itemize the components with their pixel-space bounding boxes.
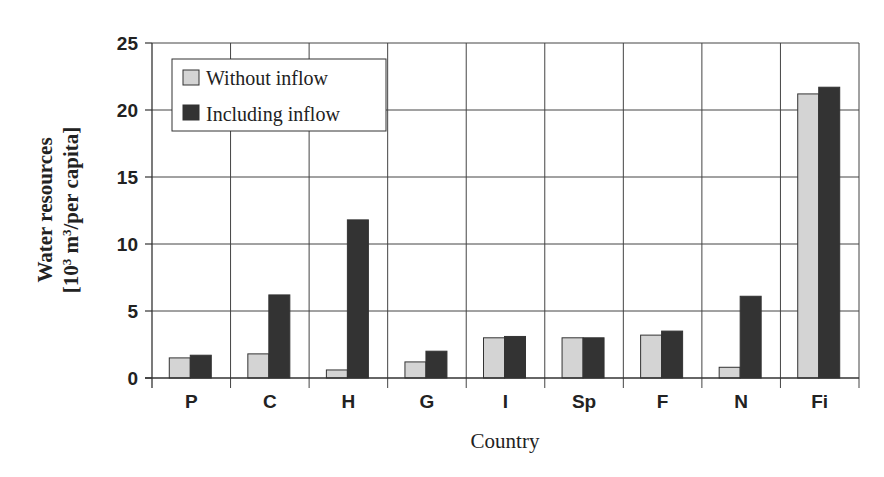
bar-including-inflow-n: [740, 296, 761, 378]
bar-without-inflow-i: [484, 338, 505, 378]
bar-including-inflow-sp: [583, 338, 604, 378]
y-tick-label: 25: [117, 33, 139, 54]
y-axis-title-line1: Water resources: [33, 137, 57, 282]
x-category-label: H: [342, 391, 356, 412]
bar-including-inflow-g: [426, 351, 447, 378]
legend: Without inflow Including inflow: [172, 59, 386, 131]
legend-label-including-inflow: Including inflow: [206, 103, 340, 126]
y-tick-label: 15: [117, 167, 139, 188]
x-category-labels: PCHGISpFNFi: [185, 391, 828, 412]
y-tick-labels: 0510152025: [117, 33, 139, 389]
y-tick-label: 10: [117, 234, 138, 255]
x-category-label: N: [734, 391, 748, 412]
bar-without-inflow-h: [326, 370, 347, 378]
x-category-label: G: [420, 391, 435, 412]
x-category-label: C: [263, 391, 277, 412]
bar-including-inflow-fi: [819, 87, 840, 378]
y-tick-label: 5: [127, 301, 138, 322]
y-tick-label: 20: [117, 100, 138, 121]
legend-swatch-including-inflow: [183, 105, 199, 120]
x-category-label: I: [503, 391, 508, 412]
bar-without-inflow-p: [169, 358, 190, 378]
bar-including-inflow-c: [269, 295, 290, 378]
y-tick-label: 0: [127, 368, 138, 389]
y-axis-title-line2: [103 m3/per capita]: [59, 127, 84, 294]
bar-without-inflow-f: [641, 335, 662, 378]
bar-without-inflow-sp: [562, 338, 583, 378]
bar-including-inflow-p: [190, 355, 211, 378]
x-category-label: Sp: [572, 391, 596, 412]
bar-without-inflow-fi: [798, 94, 819, 378]
x-category-label: Fi: [811, 391, 828, 412]
bar-without-inflow-g: [405, 362, 426, 378]
bar-chart: 0510152025 PCHGISpFNFi Country Water res…: [0, 0, 884, 477]
x-category-label: F: [657, 391, 669, 412]
bar-including-inflow-f: [662, 331, 683, 378]
bar-without-inflow-c: [248, 354, 269, 378]
y-axis-title: Water resources [103 m3/per capita]: [33, 127, 83, 294]
x-category-label: P: [185, 391, 198, 412]
bar-including-inflow-i: [505, 336, 526, 378]
x-axis-title: Country: [471, 429, 540, 453]
legend-label-without-inflow: Without inflow: [206, 67, 329, 89]
legend-swatch-without-inflow: [183, 70, 199, 85]
bar-without-inflow-n: [719, 367, 740, 378]
bar-including-inflow-h: [347, 220, 368, 378]
